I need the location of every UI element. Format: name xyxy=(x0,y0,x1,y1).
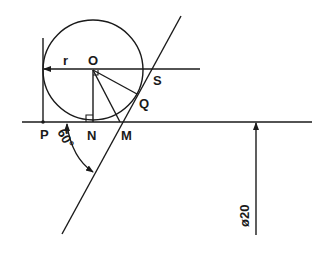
label-diameter-20: ø20 xyxy=(237,205,252,227)
label-Q: Q xyxy=(139,96,149,111)
geometry-diagram: O r S Q P N M 60° ø20 xyxy=(0,0,331,255)
label-N: N xyxy=(87,128,96,143)
inclined-line xyxy=(62,16,181,234)
label-O: O xyxy=(88,53,98,68)
label-M: M xyxy=(121,128,132,143)
label-angle-60: 60° xyxy=(54,126,77,151)
label-S: S xyxy=(153,73,162,88)
right-angle-mark-N xyxy=(86,115,93,122)
label-r: r xyxy=(63,53,68,68)
point-P xyxy=(41,120,45,124)
label-P: P xyxy=(40,127,49,142)
